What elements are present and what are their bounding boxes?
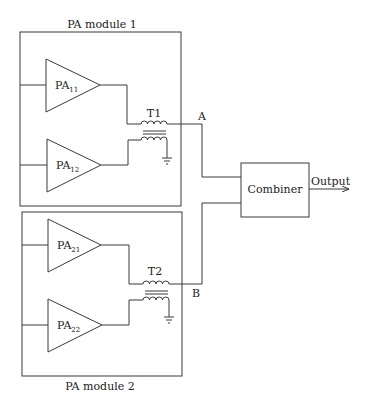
primary-coil-icon [143, 281, 169, 284]
secondary-coil-icon [141, 137, 167, 140]
transformer-core-icon [145, 291, 168, 294]
primary-coil-icon [141, 121, 167, 124]
output: Output [309, 175, 351, 189]
transformer-core-icon [143, 131, 166, 134]
transformer-label: T1 [147, 107, 161, 120]
amplifier-pa21: PA21 [48, 219, 101, 272]
node-a-label: A [197, 110, 207, 123]
amplifier-pa12: PA12 [47, 139, 101, 192]
pa-combiner-diagram: PA module 1 PA11 PA12 T1 A [0, 0, 367, 408]
transformer-t2: T2 [143, 265, 174, 323]
combiner-block: Combiner [241, 163, 309, 217]
module-1-label: PA module 1 [67, 18, 137, 31]
pa21-output-wire [101, 245, 143, 284]
pa12-output-wire [101, 140, 141, 165]
pa11-output-wire [100, 85, 141, 124]
combiner-label: Combiner [248, 183, 304, 196]
output-label: Output [311, 175, 351, 188]
pa22-output-wire [102, 300, 143, 325]
pa-module-2: PA module 2 PA21 PA22 T2 B [22, 203, 241, 393]
pa-module-1: PA module 1 PA11 PA12 T1 A [20, 18, 241, 206]
node-b-label: B [192, 287, 200, 300]
node-b-wire [169, 203, 241, 284]
module-2-label: PA module 2 [65, 380, 135, 393]
amplifier-pa11: PA11 [46, 59, 100, 112]
ground-icon [164, 317, 174, 323]
ground-icon [162, 158, 172, 164]
transformer-label: T2 [148, 265, 162, 278]
amplifier-pa22: PA22 [48, 299, 102, 352]
node-a-wire [167, 124, 241, 177]
secondary-coil-icon [143, 297, 169, 300]
transformer-t1: T1 [141, 107, 172, 164]
